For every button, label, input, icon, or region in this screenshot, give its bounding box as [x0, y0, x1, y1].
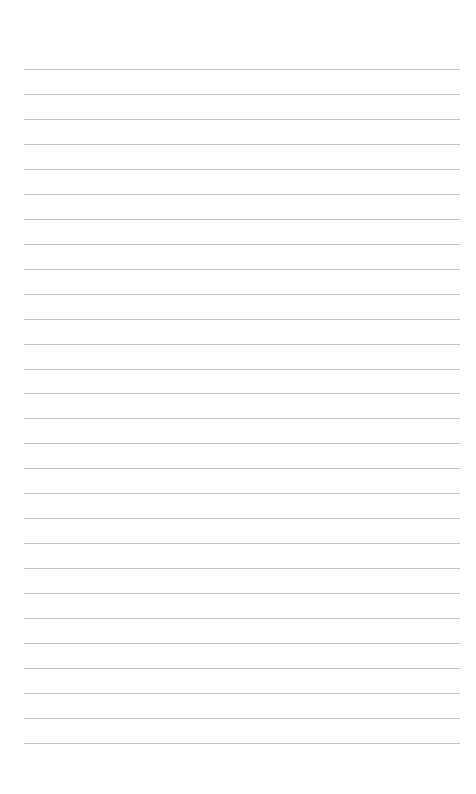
ruled-line: [24, 269, 460, 270]
ruled-line: [24, 194, 460, 195]
ruled-line: [24, 643, 460, 644]
ruled-line: [24, 344, 460, 345]
ruled-line: [24, 169, 460, 170]
ruled-line: [24, 468, 460, 469]
ruled-line: [24, 94, 460, 95]
ruled-line: [24, 568, 460, 569]
ruled-line: [24, 718, 460, 719]
ruled-line: [24, 593, 460, 594]
ruled-line: [24, 493, 460, 494]
ruled-line: [24, 693, 460, 694]
ruled-line: [24, 618, 460, 619]
ruled-line: [24, 443, 460, 444]
ruled-line: [24, 69, 460, 70]
ruled-line: [24, 294, 460, 295]
ruled-line: [24, 743, 460, 744]
ruled-line: [24, 393, 460, 394]
ruled-line: [24, 119, 460, 120]
ruled-line: [24, 369, 460, 370]
lined-paper-page: [0, 0, 476, 794]
ruled-line: [24, 244, 460, 245]
ruled-line: [24, 418, 460, 419]
ruled-line: [24, 518, 460, 519]
ruled-line: [24, 543, 460, 544]
ruled-line: [24, 144, 460, 145]
ruled-line: [24, 219, 460, 220]
ruled-line: [24, 319, 460, 320]
ruled-line: [24, 668, 460, 669]
